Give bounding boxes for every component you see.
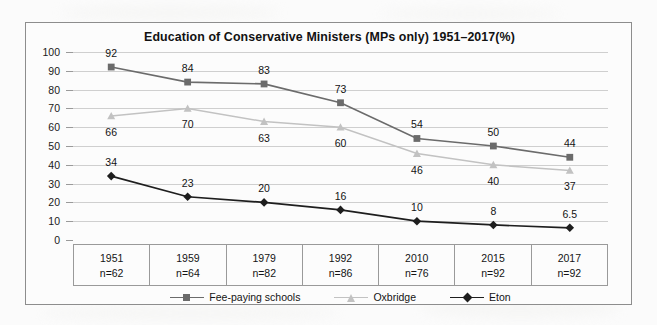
x-axis-sample-size: n=76 [405, 267, 429, 279]
x-axis-sample-size: n=86 [329, 267, 353, 279]
screenshot-canvas: Education of Conservative Ministers (MPs… [0, 0, 657, 325]
legend-item-eton[interactable]: Eton [450, 291, 511, 303]
y-axis-tick-mark [66, 221, 73, 222]
data-point-marker [336, 206, 345, 215]
y-axis-tick-30: 30 [17, 178, 69, 190]
data-label: 10 [411, 201, 423, 213]
x-axis-category-1992: 1992n=86 [303, 245, 379, 285]
series-line-eton [111, 176, 570, 228]
data-label: 8 [490, 205, 496, 217]
data-label: 6.5 [562, 208, 577, 220]
x-axis-year: 1979 [253, 252, 276, 264]
data-point-marker [489, 221, 498, 230]
legend-marker [462, 292, 472, 302]
data-label: 50 [488, 126, 500, 138]
data-point-marker [107, 172, 116, 181]
x-axis-sample-size: n=64 [176, 267, 200, 279]
y-axis-tick-mark [66, 127, 73, 128]
data-label: 23 [182, 177, 194, 189]
y-axis-tick-mark [66, 240, 73, 241]
x-axis-year: 2010 [405, 252, 428, 264]
data-point-marker [337, 99, 344, 106]
data-point-marker [261, 81, 268, 88]
x-axis-category-2017: 2017n=92 [532, 245, 607, 285]
plot-area: 9284837354504466706360464037342320161086… [73, 52, 608, 240]
x-axis-category-2010: 2010n=76 [379, 245, 455, 285]
y-axis-tick-mark [66, 108, 73, 109]
y-axis-tick-10: 10 [17, 215, 69, 227]
y-axis-tick-20: 20 [17, 196, 69, 208]
x-axis-category-1951: 1951n=62 [74, 245, 150, 285]
data-label: 84 [182, 62, 194, 74]
y-axis-labels: 1009080706050403020100 [26, 52, 69, 240]
x-axis-sample-size: n=92 [558, 267, 582, 279]
x-axis-category-1959: 1959n=64 [150, 245, 226, 285]
data-label: 63 [258, 132, 270, 144]
data-point-marker [566, 154, 573, 161]
x-axis-sample-size: n=82 [252, 267, 276, 279]
data-label: 92 [105, 47, 117, 59]
y-axis-tick-40: 40 [17, 159, 69, 171]
y-axis-tick-mark [66, 146, 73, 147]
legend-item-oxbridge[interactable]: Oxbridge [334, 291, 416, 303]
y-axis-tick-mark [66, 202, 73, 203]
x-axis-year: 1992 [329, 252, 352, 264]
legend-square-icon [170, 292, 204, 302]
data-point-marker [183, 192, 192, 201]
scan-artifact [380, 8, 560, 20]
data-label: 73 [335, 83, 347, 95]
legend-label: Eton [489, 291, 511, 303]
data-label: 70 [182, 118, 194, 130]
scan-artifact [40, 306, 340, 320]
legend-marker [183, 294, 190, 301]
chart-title: Education of Conservative Ministers (MPs… [26, 30, 633, 44]
x-axis-sample-size: n=62 [100, 267, 124, 279]
data-label: 40 [488, 175, 500, 187]
data-label: 37 [564, 180, 576, 192]
chart-legend: Fee-paying schoolsOxbridgeEton [73, 289, 608, 305]
y-axis-tick-0: 0 [17, 234, 69, 246]
y-axis-tick-mark [66, 184, 73, 185]
y-axis-tick-60: 60 [17, 121, 69, 133]
y-axis-tick-mark [66, 165, 73, 166]
scan-artifact [60, 6, 280, 20]
x-axis-year: 2017 [558, 252, 581, 264]
chart-frame: Education of Conservative Ministers (MPs… [25, 22, 632, 305]
data-label: 20 [258, 182, 270, 194]
y-axis-tick-100: 100 [17, 46, 69, 58]
data-label: 66 [105, 126, 117, 138]
data-point-marker [565, 223, 574, 232]
legend-marker [347, 294, 355, 302]
data-point-marker [108, 64, 115, 71]
y-axis-tick-mark [66, 71, 73, 72]
y-axis-tick-50: 50 [17, 140, 69, 152]
x-axis-category-2015: 2015n=92 [455, 245, 531, 285]
data-label: 34 [105, 156, 117, 168]
data-label: 54 [411, 118, 423, 130]
data-label: 83 [258, 64, 270, 76]
data-point-marker [184, 79, 191, 86]
legend-triangle-icon [334, 292, 368, 302]
x-axis-category-band: 1951n=621959n=641979n=821992n=862010n=76… [73, 244, 608, 286]
data-point-marker [260, 198, 269, 207]
y-axis-tick-90: 90 [17, 65, 69, 77]
x-axis-year: 1951 [100, 252, 123, 264]
y-axis-tick-mark [66, 52, 73, 53]
data-label: 16 [335, 190, 347, 202]
x-axis-sample-size: n=92 [481, 267, 505, 279]
data-label: 46 [411, 164, 423, 176]
x-axis-year: 2015 [481, 252, 504, 264]
data-label: 44 [564, 137, 576, 149]
legend-label: Oxbridge [373, 291, 416, 303]
legend-label: Fee-paying schools [209, 291, 300, 303]
x-axis-category-1979: 1979n=82 [227, 245, 303, 285]
data-point-marker [490, 143, 497, 150]
x-axis-year: 1959 [176, 252, 199, 264]
data-point-marker [413, 217, 422, 226]
legend-item-fee-paying-schools[interactable]: Fee-paying schools [170, 291, 300, 303]
data-label: 60 [335, 137, 347, 149]
legend-diamond-icon [450, 292, 484, 302]
y-axis-tick-70: 70 [17, 102, 69, 114]
y-axis-tick-80: 80 [17, 84, 69, 96]
data-point-marker [414, 135, 421, 142]
